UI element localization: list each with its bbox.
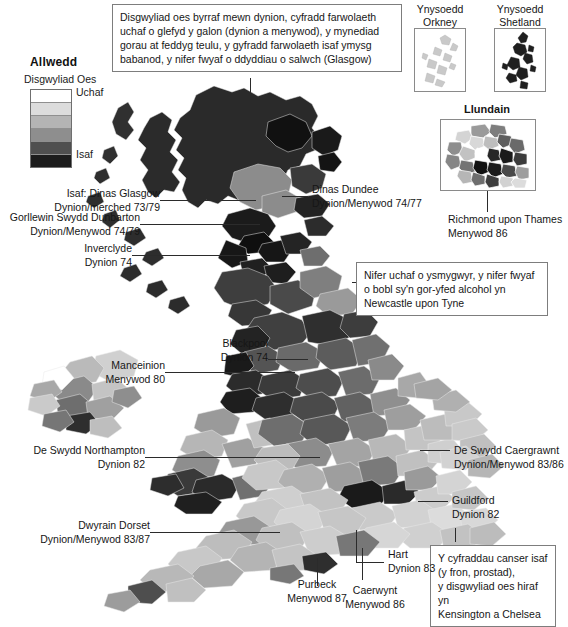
leader-line-guildford (418, 501, 448, 502)
leader-line-winchester (362, 548, 363, 580)
label-richmond: Richmond upon Thames Menywod 86 (448, 213, 568, 240)
label-guildford: Guildford Dynion 82 (452, 494, 552, 521)
label-cambridge: De Swydd Caergrawnt Dynion/Menywod 83/86 (454, 444, 568, 471)
leader-line-cambridge (420, 450, 450, 451)
orkney-map (415, 29, 466, 92)
shetland-map (495, 29, 546, 92)
leader-line-dunbarton (140, 224, 260, 225)
label-manchester: Manceinion Menywod 80 (45, 359, 165, 386)
label-northampton: De Swydd Northampton Dynion 82 (5, 444, 145, 471)
orkney-caption: Ynysoedd Orkney (404, 3, 476, 28)
label-dundee: Dinas Dundee Dynion/Menywod 74/77 (312, 183, 452, 210)
leader-line-hart-v (356, 530, 357, 562)
callout-glasgow: Disgwyliad oes byrraf mewn dynion, cyfra… (112, 4, 402, 72)
label-inverclyde: Inverclyde Dynion 74 (0, 242, 132, 269)
london-boroughs-map (441, 120, 536, 191)
orkney-inset-frame (414, 28, 466, 92)
london-inset-frame (440, 119, 536, 191)
label-dunbarton: Gorllewin Swydd Dunbarton Dynion/Menywod… (0, 211, 140, 238)
leader-line-inverclyde (132, 255, 250, 256)
label-dorset: Dwyrain Dorset Dynion/Menywod 83/87 (5, 519, 150, 546)
leader-line-blackpool (268, 359, 308, 360)
leader-line-northampton (145, 457, 320, 458)
leader-line-glasgow-label (160, 200, 256, 201)
leader-line-dorset (150, 532, 280, 533)
callout-newcastle: Nifer uchaf o ysmygwyr, y nifer fwyaf o … (356, 262, 548, 316)
leader-line-hart (356, 562, 384, 563)
leader-line-glasgow-box (250, 78, 251, 94)
shetland-caption: Ynysoedd Shetland (484, 3, 556, 28)
label-blackpool: Blackpool Dynion 74 (168, 337, 268, 364)
label-hart: Hart Dynion 83 (388, 548, 468, 575)
london-caption: Llundain (428, 103, 546, 116)
leader-line-kensington (455, 528, 456, 542)
label-glasgow: Isaf: Dinas Glasgow Dynion/merched 73/79 (10, 187, 160, 214)
leader-line-manchester (165, 372, 295, 373)
label-winchester: Caerwynt Menywod 86 (330, 584, 420, 611)
shetland-inset-frame (494, 28, 546, 92)
leader-line-dundee (282, 196, 308, 197)
